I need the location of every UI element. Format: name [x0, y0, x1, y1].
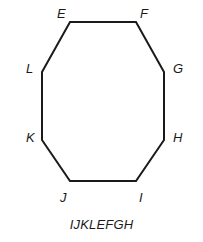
octagon-diagram — [0, 0, 203, 242]
vertex-label-l: L — [26, 62, 33, 75]
vertex-label-e: E — [57, 7, 66, 20]
vertex-label-i: I — [139, 191, 143, 204]
vertex-label-h: H — [173, 131, 182, 144]
vertex-label-g: G — [173, 62, 183, 75]
octagon-figure: E F G H I J K L IJKLEFGH — [0, 0, 203, 242]
vertex-label-k: K — [26, 131, 35, 144]
vertex-label-j: J — [60, 191, 67, 204]
figure-caption: IJKLEFGH — [0, 218, 203, 232]
octagon-shape — [42, 22, 164, 181]
vertex-label-f: F — [140, 7, 148, 20]
